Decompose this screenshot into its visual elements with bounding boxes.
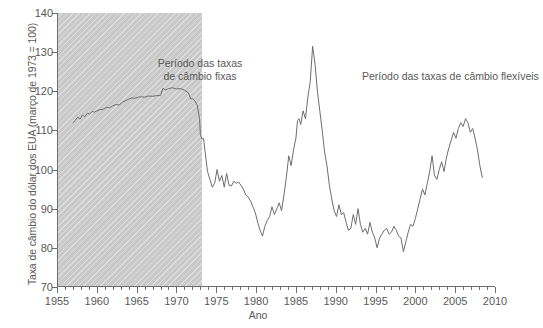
x-tick-major (256, 287, 257, 293)
x-tick-major (495, 287, 496, 293)
x-tick-minor (65, 287, 66, 290)
x-tick-label: 2010 (483, 295, 507, 307)
x-tick-minor (479, 287, 480, 290)
x-tick-label: 1960 (85, 295, 109, 307)
y-tick-label: 80 (41, 242, 53, 254)
x-tick-major (415, 287, 416, 293)
x-tick-minor (129, 287, 130, 290)
x-tick-minor (423, 287, 424, 290)
x-tick-minor (184, 287, 185, 290)
x-tick-minor (288, 287, 289, 290)
x-tick-major (296, 287, 297, 293)
x-tick-minor (200, 287, 201, 290)
x-tick-minor (391, 287, 392, 290)
x-axis-label: Ano (0, 309, 516, 321)
x-tick-major (376, 287, 377, 293)
x-tick-label: 1995 (363, 295, 387, 307)
x-tick-major (176, 287, 177, 293)
x-tick-minor (487, 287, 488, 290)
x-tick-major (216, 287, 217, 293)
x-tick-label: 1975 (204, 295, 228, 307)
x-tick-label: 1990 (323, 295, 347, 307)
y-tick-label: 110 (35, 124, 53, 136)
x-tick-major (97, 287, 98, 293)
x-tick-minor (153, 287, 154, 290)
x-tick-major (455, 287, 456, 293)
x-tick-minor (81, 287, 82, 290)
x-tick-minor (344, 287, 345, 290)
x-tick-minor (360, 287, 361, 290)
x-axis-line (57, 286, 495, 287)
x-tick-minor (145, 287, 146, 290)
x-tick-label: 1965 (124, 295, 148, 307)
x-tick-label: 2000 (403, 295, 427, 307)
x-tick-minor (224, 287, 225, 290)
x-tick-label: 1955 (45, 295, 69, 307)
x-tick-minor (312, 287, 313, 290)
x-tick-major (137, 287, 138, 293)
y-tick-label: 70 (41, 281, 53, 293)
x-tick-minor (384, 287, 385, 290)
y-tick-label: 130 (35, 46, 53, 58)
x-tick-minor (192, 287, 193, 290)
x-tick-label: 1970 (164, 295, 188, 307)
x-tick-minor (161, 287, 162, 290)
x-tick-minor (280, 287, 281, 290)
x-tick-minor (89, 287, 90, 290)
x-tick-minor (399, 287, 400, 290)
y-tick-label: 140 (35, 7, 53, 19)
x-tick-minor (320, 287, 321, 290)
x-tick-minor (352, 287, 353, 290)
x-tick-minor (168, 287, 169, 290)
x-tick-minor (121, 287, 122, 290)
x-tick-label: 1985 (284, 295, 308, 307)
x-tick-minor (240, 287, 241, 290)
x-tick-minor (248, 287, 249, 290)
x-tick-minor (272, 287, 273, 290)
x-tick-minor (304, 287, 305, 290)
x-tick-minor (407, 287, 408, 290)
x-tick-minor (431, 287, 432, 290)
x-tick-minor (447, 287, 448, 290)
y-tick-label: 90 (41, 203, 53, 215)
plot-area: Período das taxas de câmbio fixas Períod… (57, 13, 495, 287)
x-tick-minor (105, 287, 106, 290)
exchange-rate-line-series (57, 13, 495, 287)
x-tick-minor (113, 287, 114, 290)
x-tick-minor (264, 287, 265, 290)
y-axis-line (57, 13, 58, 287)
x-tick-label: 1980 (244, 295, 268, 307)
x-tick-minor (232, 287, 233, 290)
x-tick-major (336, 287, 337, 293)
x-tick-minor (471, 287, 472, 290)
y-tick-label: 100 (35, 164, 53, 176)
x-tick-major (57, 287, 58, 293)
y-tick-label: 120 (35, 85, 53, 97)
x-tick-minor (328, 287, 329, 290)
x-tick-minor (368, 287, 369, 290)
x-tick-minor (73, 287, 74, 290)
x-tick-minor (463, 287, 464, 290)
x-tick-label: 2005 (443, 295, 467, 307)
x-tick-minor (208, 287, 209, 290)
x-tick-minor (439, 287, 440, 290)
